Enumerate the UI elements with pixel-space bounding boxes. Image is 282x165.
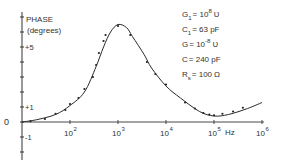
theory-curve bbox=[22, 24, 262, 122]
data-point bbox=[102, 40, 104, 42]
x-tick-label: 104 bbox=[160, 126, 173, 138]
x-tick-label: 102 bbox=[64, 126, 77, 138]
y-tick-labels: +5+10-1 bbox=[4, 43, 34, 142]
data-point bbox=[44, 118, 46, 120]
phase-frequency-chart: PHASE (degrees) +5+10-1 102103104105106 … bbox=[0, 0, 282, 165]
param-g: G= 10-8Ʋ bbox=[182, 38, 218, 49]
y-tick-label: 0 bbox=[4, 117, 9, 127]
data-point bbox=[83, 88, 85, 90]
data-point bbox=[208, 113, 210, 115]
x-tick-label: 106 bbox=[256, 126, 269, 138]
data-point bbox=[29, 120, 31, 122]
y-axis bbox=[20, 12, 24, 160]
data-point bbox=[104, 34, 106, 36]
data-point bbox=[77, 97, 79, 99]
data-point bbox=[98, 52, 100, 54]
data-point bbox=[213, 114, 215, 116]
data-point bbox=[202, 112, 204, 114]
data-point bbox=[165, 83, 167, 85]
param-rs: Rs= 100Ω bbox=[182, 70, 220, 81]
y-tick-label: +5 bbox=[25, 43, 34, 52]
data-point bbox=[242, 107, 244, 109]
x-tick-label: 105 bbox=[208, 126, 221, 138]
x-tick-labels: 102103104105106 bbox=[64, 126, 269, 138]
circuit-parameters: G1= 108ƲC1= 63 pFG= 10-8ƲC= 240 pFRs= 10… bbox=[182, 8, 221, 81]
y-tick-label: -1 bbox=[25, 133, 32, 142]
y-axis-title: PHASE bbox=[26, 15, 53, 24]
data-point bbox=[129, 34, 131, 36]
data-point bbox=[92, 76, 94, 78]
x-tick-label: 103 bbox=[112, 126, 125, 138]
data-point bbox=[54, 113, 56, 115]
data-point bbox=[95, 64, 97, 66]
param-g1: G1= 108Ʋ bbox=[182, 8, 220, 21]
param-c: C= 240 pF bbox=[182, 55, 221, 64]
data-point bbox=[117, 25, 119, 27]
data-point bbox=[232, 110, 234, 112]
data-point bbox=[221, 113, 223, 115]
data-point bbox=[154, 73, 156, 75]
data-point bbox=[146, 61, 148, 63]
y-tick-label: +1 bbox=[25, 103, 34, 112]
data-point bbox=[69, 103, 71, 105]
x-axis bbox=[22, 120, 264, 124]
data-point bbox=[194, 107, 196, 109]
data-point bbox=[64, 109, 66, 111]
param-c1: C1= 63 pF bbox=[182, 25, 220, 36]
y-axis-unit: (degrees) bbox=[27, 26, 62, 35]
x-axis-unit: Hz bbox=[225, 128, 235, 137]
data-point bbox=[184, 101, 186, 103]
